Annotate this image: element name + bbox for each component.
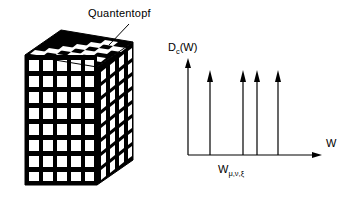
y-axis-label-base: D bbox=[168, 41, 176, 53]
y-axis-label-arg: (W) bbox=[180, 41, 198, 53]
y-axis-label-subscript: c bbox=[176, 47, 180, 56]
energy-level-label-subscript: μ,ν,ξ bbox=[228, 169, 244, 178]
x-axis-label: W bbox=[326, 138, 336, 149]
energy-level-label-base: W bbox=[218, 163, 228, 175]
quantentopf-label: Quantentopf bbox=[88, 8, 151, 19]
y-axis-label: Dc(W) bbox=[168, 42, 197, 53]
figure-canvas bbox=[0, 0, 350, 215]
energy-level-label: Wμ,ν,ξ bbox=[218, 164, 244, 175]
superlattice-cube bbox=[25, 30, 133, 185]
